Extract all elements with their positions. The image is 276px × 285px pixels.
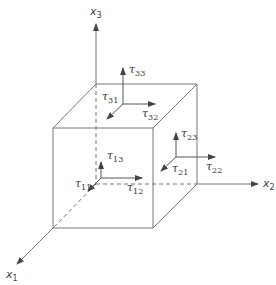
label-tau31: τ31 bbox=[102, 90, 118, 105]
label-tau11: τ11 bbox=[75, 177, 91, 192]
label-tau21: τ21 bbox=[172, 162, 188, 177]
label-tau33: τ33 bbox=[129, 63, 145, 78]
label-tau12: τ12 bbox=[127, 181, 143, 196]
axis-label-x1: x1 bbox=[5, 268, 18, 283]
label-tau23: τ23 bbox=[181, 127, 197, 142]
axis-label-x2: x2 bbox=[262, 177, 275, 192]
stress-cube-diagram: x3 x2 x1 τ33 τ31 τ32 τ23 τ21 τ22 τ13 τ11… bbox=[0, 0, 276, 285]
axis-label-x3: x3 bbox=[89, 5, 102, 20]
label-tau32: τ32 bbox=[142, 107, 158, 122]
label-tau13: τ13 bbox=[107, 149, 123, 164]
axis-x1 bbox=[17, 184, 96, 264]
label-tau22: τ22 bbox=[206, 160, 222, 175]
